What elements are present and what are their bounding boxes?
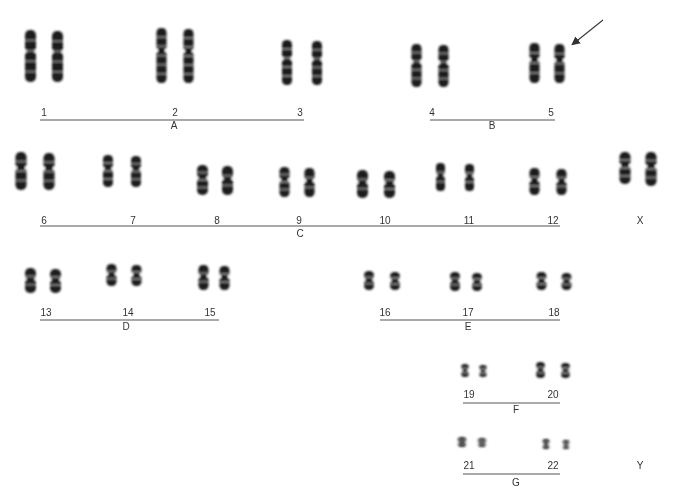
chromosome-label-13: 13 <box>40 307 52 318</box>
group-label-B: B <box>489 120 496 131</box>
chromosome-label-8: 8 <box>214 215 220 226</box>
chromosome-label-X: X <box>637 215 644 226</box>
chromosome-12-a <box>529 168 541 195</box>
chromosome-18-a <box>536 272 548 290</box>
chromosome-17-b <box>471 273 483 291</box>
chromosome-4-a <box>411 44 423 87</box>
chromosome-8-b <box>221 166 234 195</box>
chromosome-label-5: 5 <box>548 107 554 118</box>
chromosome-label-20: 20 <box>547 389 559 400</box>
chromosome-label-10: 10 <box>379 215 391 226</box>
chromosome-6-a <box>15 152 28 190</box>
chromosome-1-b <box>51 31 64 82</box>
chromosome-label-22: 22 <box>547 460 559 471</box>
chromosome-9-a <box>279 167 291 197</box>
chromosome-label-2: 2 <box>172 107 178 118</box>
group-label-C: C <box>296 228 303 239</box>
chromosome-21-a <box>456 437 468 447</box>
chromosome-5-b <box>554 44 566 83</box>
chromosome-11-b <box>464 164 475 191</box>
chromosome-label-9: 9 <box>296 215 302 226</box>
chromosome-X-b <box>645 152 658 186</box>
chromosome-15-b <box>219 266 231 290</box>
chromosome-4-b <box>438 45 450 87</box>
chromosome-9-b <box>304 168 316 197</box>
chromosome-19-b <box>478 365 488 377</box>
chromosome-label-Y: Y <box>637 460 644 471</box>
chromosome-label-12: 12 <box>547 215 559 226</box>
chromosome-11-a <box>435 163 446 191</box>
chromosome-8-a <box>196 165 209 195</box>
chromosome-2-b <box>183 29 195 83</box>
chromosome-5-a <box>529 43 541 83</box>
chromosome-7-a <box>102 155 114 187</box>
chromosome-label-7: 7 <box>130 215 136 226</box>
group-lines <box>40 120 560 474</box>
chromosome-label-19: 19 <box>463 389 475 400</box>
chromosome-12-b <box>556 169 568 195</box>
chromosome-18-b <box>561 273 573 290</box>
group-label-A: A <box>171 120 178 131</box>
chromosome-17-a <box>449 272 461 291</box>
chromosome-7-b <box>130 156 142 187</box>
chromosome-label-16: 16 <box>379 307 391 318</box>
chromosome-label-15: 15 <box>204 307 216 318</box>
group-label-E: E <box>465 321 472 332</box>
chromosome-15-a <box>198 265 210 290</box>
karyotype-diagram: 123A45B6789101112C131415D161718E1920F212… <box>0 0 673 498</box>
chromosome-16-b <box>389 272 401 290</box>
chromosome-label-3: 3 <box>297 107 303 118</box>
chromosome-21-b <box>476 438 488 447</box>
chromosome-22-b <box>561 440 571 449</box>
labels-layer: 123A45B6789101112C131415D161718E1920F212… <box>40 107 643 488</box>
chromosome-10-a <box>356 170 369 198</box>
chromosome-14-a <box>106 264 118 286</box>
chromosome-label-11: 11 <box>464 215 475 226</box>
chromosome-1-a <box>24 30 37 82</box>
chromosome-10-b <box>383 171 396 198</box>
chromosome-label-17: 17 <box>462 307 474 318</box>
chromosome-layer <box>15 28 658 449</box>
chromosome-13-b <box>49 269 62 293</box>
group-label-F: F <box>513 404 519 415</box>
chromosome-14-b <box>131 265 143 286</box>
chromosome-label-4: 4 <box>429 107 435 118</box>
chromosome-20-a <box>535 362 546 378</box>
chromosome-19-a <box>460 364 470 377</box>
chromosome-22-a <box>541 439 551 449</box>
arrow-annotation <box>573 20 603 44</box>
chromosome-label-6: 6 <box>41 215 47 226</box>
chromosome-16-a <box>363 271 375 290</box>
chromosome-3-b <box>311 41 323 85</box>
chromosome-6-b <box>43 153 56 190</box>
chromosome-20-b <box>560 363 571 378</box>
group-label-G: G <box>512 477 520 488</box>
chromosome-13-a <box>24 268 37 293</box>
chromosome-X-a <box>619 152 632 184</box>
chromosome-label-1: 1 <box>41 107 47 118</box>
chromosome-label-18: 18 <box>548 307 560 318</box>
chromosome-label-14: 14 <box>122 307 134 318</box>
chromosome-2-a <box>156 28 168 83</box>
chromosome-label-21: 21 <box>463 460 475 471</box>
chromosome-3-a <box>281 40 293 85</box>
group-label-D: D <box>122 321 129 332</box>
